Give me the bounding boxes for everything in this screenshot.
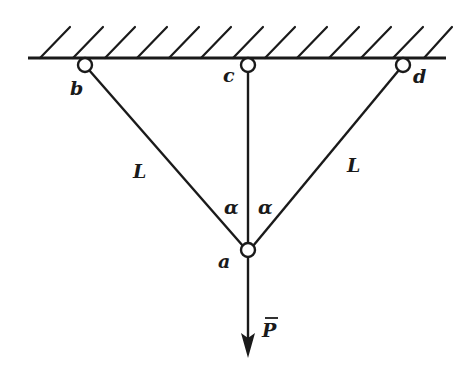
pin-d: [396, 58, 410, 72]
pin-c: [241, 58, 255, 72]
label-node-a: a: [218, 250, 230, 272]
ceiling-hatching: [40, 27, 452, 58]
label-length-da: L: [346, 154, 360, 176]
label-node-c: c: [223, 64, 235, 86]
label-angle-left: α: [224, 196, 239, 218]
member-da: [253, 70, 399, 246]
label-node-b: b: [70, 77, 83, 99]
label-node-d: d: [413, 65, 426, 87]
label-load: P: [261, 319, 277, 341]
label-length-ba: L: [132, 160, 146, 182]
member-ba: [89, 70, 243, 246]
label-angle-right: α: [258, 196, 273, 218]
truss-diagram: b c d a L L α α P: [0, 0, 464, 372]
joint-a: [241, 243, 255, 257]
pin-b: [78, 58, 92, 72]
